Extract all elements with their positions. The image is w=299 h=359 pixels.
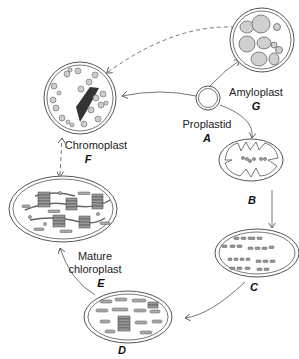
letter-C: C — [250, 281, 259, 293]
letter-A: A — [202, 132, 211, 144]
edge-E-F — [60, 138, 62, 175]
letter-D: D — [118, 344, 126, 356]
plastid-diagram: Amyloplast G Proplastid A Chromoplast F — [0, 0, 299, 359]
node-chromoplast — [44, 62, 116, 134]
edge-F-G — [108, 27, 246, 72]
node-C — [215, 229, 299, 277]
node-D — [84, 291, 172, 343]
node-proplastid — [196, 86, 220, 110]
edge-A-F — [122, 92, 196, 96]
edge-A-G — [210, 60, 240, 86]
edge-C-D — [185, 282, 245, 318]
label-chromoplast: Chromoplast — [65, 139, 127, 151]
letter-G: G — [252, 100, 261, 112]
label-chloroplast: chloroplast — [68, 263, 121, 275]
label-mature: Mature — [78, 250, 112, 262]
label-amyloplast: Amyloplast — [229, 86, 283, 98]
node-amyloplast — [230, 8, 294, 72]
node-mature-chloroplast — [9, 176, 117, 242]
label-proplastid: Proplastid — [183, 118, 232, 130]
letter-F: F — [85, 153, 92, 165]
letter-E: E — [97, 277, 105, 289]
node-B — [219, 139, 283, 181]
letter-B: B — [248, 194, 256, 206]
